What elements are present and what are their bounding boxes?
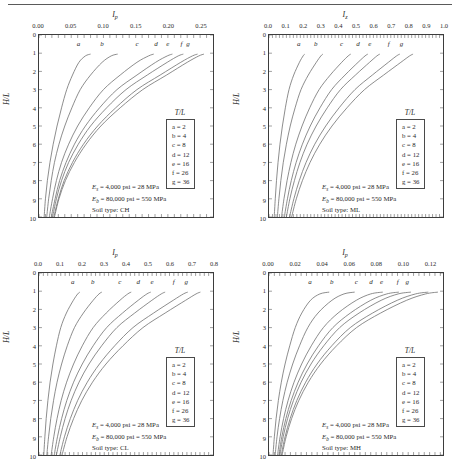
- y-tick-label: 10: [260, 215, 267, 222]
- y-tick-label: 1: [33, 49, 36, 56]
- eb-subscript: b: [326, 197, 329, 203]
- x-tick-label: 0.0: [264, 22, 272, 29]
- notes-block: Es = 4,000 psi = 28 MPaEb = 80,000 psi =…: [92, 182, 166, 215]
- x-tick-label: 0.0: [34, 260, 42, 267]
- eb-subscript: b: [96, 435, 99, 441]
- x-tick-label: 0.10: [97, 22, 108, 29]
- legend-entry-f: f = 26: [172, 406, 189, 415]
- note-es: Es = 4,000 psi = 28 MPa: [92, 182, 166, 194]
- y-tick-label: 1: [263, 287, 266, 294]
- y-tick-label: 9: [33, 196, 36, 203]
- x-tick-label: 0.3: [317, 22, 325, 29]
- x-axis-title: Ip: [0, 10, 230, 20]
- x-tick-label: 0.6: [166, 260, 174, 267]
- x-tick-labels: 0.00.10.20.30.40.50.60.70.80.91.0: [268, 22, 444, 32]
- es-value: = 4,000 psi = 28 MPa: [330, 183, 389, 190]
- legend-entry-d: d = 12: [172, 150, 189, 159]
- y-tick-label: 4: [33, 104, 36, 111]
- y-tick-label: 6: [33, 379, 36, 386]
- es-subscript: s: [96, 186, 98, 192]
- x-tick-label: 0.00: [32, 22, 43, 29]
- x-tick-label: 0.05: [65, 22, 76, 29]
- x-tick-label: 0.00: [262, 260, 273, 267]
- y-tick-labels: 012345678910: [252, 34, 266, 218]
- eb-value: = 80,000 psi = 550 MPa: [330, 433, 396, 440]
- x-axis-title: Ip: [230, 248, 460, 258]
- x-tick-labels: 0.00.10.20.30.40.50.60.70.8: [38, 260, 214, 270]
- legend-entry-a: a = 2: [402, 360, 419, 369]
- x-tick-label: 0.02: [289, 260, 300, 267]
- legend-entry-c: c = 8: [172, 378, 189, 387]
- note-es: Es = 4,000 psi = 28 MPa: [92, 420, 166, 432]
- y-tick-label: 1: [33, 287, 36, 294]
- note-soil-type: Soil type: CH: [92, 205, 166, 215]
- x-tick-label: 0.04: [316, 260, 327, 267]
- eb-value: = 80,000 psi = 550 MPa: [100, 433, 166, 440]
- eb-value: = 80,000 psi = 550 MPa: [330, 195, 396, 202]
- y-tick-label: 3: [263, 86, 266, 93]
- legend-title: T/L: [390, 108, 430, 117]
- legend-entry-e: e = 16: [172, 159, 189, 168]
- x-tick-label: 0.8: [405, 22, 413, 29]
- x-tick-label: 0.15: [130, 22, 141, 29]
- x-tick-label: 0.10: [398, 260, 409, 267]
- x-axis-title: Iz: [230, 10, 460, 20]
- x-tick-label: 0.7: [387, 22, 395, 29]
- legend-entry-g: g = 36: [172, 415, 189, 424]
- note-soil-type: Soil type: ML: [322, 205, 396, 215]
- y-tick-label: 8: [33, 178, 36, 185]
- y-tick-labels: 012345678910: [22, 272, 36, 456]
- legend-entry-b: b = 4: [402, 131, 419, 140]
- y-tick-label: 9: [33, 434, 36, 441]
- y-tick-label: 7: [33, 397, 36, 404]
- y-tick-label: 2: [33, 305, 36, 312]
- legend-entry-d: d = 12: [172, 388, 189, 397]
- x-tick-label: 1.0: [440, 22, 448, 29]
- x-tick-label: 0.3: [100, 260, 108, 267]
- chart-panel-mh: Ip0.000.020.040.060.080.100.12H/L0123456…: [230, 238, 460, 476]
- x-tick-label: 0.6: [370, 22, 378, 29]
- notes-block: Es = 4,000 psi = 28 MPaEb = 80,000 psi =…: [92, 420, 166, 453]
- y-tick-label: 2: [33, 67, 36, 74]
- note-eb: Eb = 80,000 psi = 550 MPa: [322, 432, 396, 444]
- note-es: Es = 4,000 psi = 28 MPa: [322, 420, 396, 432]
- y-tick-label: 4: [263, 342, 266, 349]
- y-tick-label: 8: [263, 416, 266, 423]
- legend-entry-f: f = 26: [402, 168, 419, 177]
- x-tick-label: 0.5: [144, 260, 152, 267]
- x-tick-label: 0.1: [56, 260, 64, 267]
- eb-value: = 80,000 psi = 550 MPa: [100, 195, 166, 202]
- notes-block: Es = 4,000 psi = 28 MPaEb = 80,000 psi =…: [322, 420, 396, 453]
- es-value: = 4,000 psi = 28 MPa: [330, 421, 389, 428]
- legend-entry-c: c = 8: [402, 378, 419, 387]
- x-tick-label: 0.1: [282, 22, 290, 29]
- y-tick-label: 7: [263, 159, 266, 166]
- y-tick-label: 2: [263, 305, 266, 312]
- x-axis-title: Ip: [0, 248, 230, 258]
- legend-box: a = 2b = 4c = 8d = 12e = 16f = 26g = 36: [166, 357, 195, 427]
- y-tick-label: 5: [263, 361, 266, 368]
- x-axis-title-subscript: p: [345, 252, 348, 258]
- chart-panel-cl: Ip0.00.10.20.30.40.50.60.70.8H/L01234567…: [0, 238, 230, 476]
- y-tick-label: 5: [263, 123, 266, 130]
- y-tick-label: 3: [33, 86, 36, 93]
- panel-grid: Ip0.000.050.100.150.200.25H/L01234567891…: [0, 0, 460, 476]
- note-soil-type: Soil type: CL: [92, 443, 166, 453]
- y-tick-label: 9: [263, 196, 266, 203]
- y-tick-label: 8: [263, 178, 266, 185]
- note-eb: Eb = 80,000 psi = 550 MPa: [322, 194, 396, 206]
- es-subscript: s: [326, 424, 328, 430]
- legend-box: a = 2b = 4c = 8d = 12e = 16f = 26g = 36: [166, 119, 195, 189]
- y-tick-label: 9: [263, 434, 266, 441]
- y-tick-label: 4: [33, 342, 36, 349]
- x-tick-label: 0.7: [188, 260, 196, 267]
- es-subscript: s: [96, 424, 98, 430]
- es-subscript: s: [326, 186, 328, 192]
- legend-entry-a: a = 2: [172, 360, 189, 369]
- y-axis-label: H/L: [2, 331, 11, 343]
- legend-box: a = 2b = 4c = 8d = 12e = 16f = 26g = 36: [396, 119, 425, 189]
- x-tick-label: 0.9: [422, 22, 430, 29]
- y-tick-label: 2: [263, 67, 266, 74]
- legend-entry-g: g = 36: [402, 177, 419, 186]
- legend-entry-a: a = 2: [402, 122, 419, 131]
